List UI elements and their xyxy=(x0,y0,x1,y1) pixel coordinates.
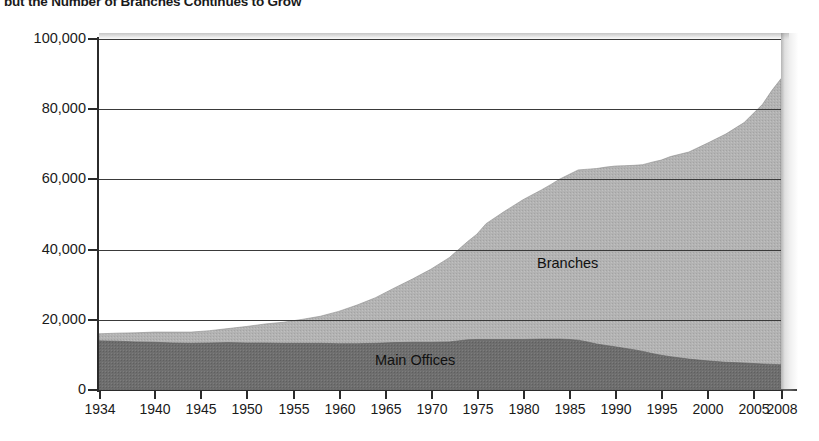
x-axis-tick xyxy=(431,390,433,399)
x-axis-label: 1950 xyxy=(231,401,262,417)
x-axis-label: 1934 xyxy=(84,401,115,417)
x-axis-tick xyxy=(753,390,755,399)
x-axis-label: 1945 xyxy=(185,401,216,417)
gridline-100000 xyxy=(99,39,781,40)
y-axis-label: 80,000 xyxy=(2,100,86,116)
x-axis-label: 2008 xyxy=(766,401,797,417)
y-axis-tick xyxy=(88,389,99,391)
x-axis-label: 1980 xyxy=(508,401,539,417)
gridline-40000 xyxy=(99,250,781,251)
x-axis-tick xyxy=(99,390,101,399)
y-axis-label: 20,000 xyxy=(2,311,86,327)
y-axis-label: 0 xyxy=(2,381,86,397)
gridline-80000 xyxy=(99,109,781,110)
chart-root: but the Number of Branches Continues to … xyxy=(0,0,819,441)
y-axis-label: 60,000 xyxy=(2,170,86,186)
x-axis-label: 1940 xyxy=(139,401,170,417)
x-axis-tick xyxy=(200,390,202,399)
x-axis-tick xyxy=(385,390,387,399)
y-axis-tick xyxy=(88,38,99,40)
series-label-branches: Branches xyxy=(537,255,598,271)
y-axis-label: 40,000 xyxy=(2,241,86,257)
y-axis-tick xyxy=(88,108,99,110)
x-axis-tick xyxy=(781,390,783,399)
x-axis-tick xyxy=(661,390,663,399)
y-axis-tick xyxy=(88,178,99,180)
gridline-20000 xyxy=(99,320,781,321)
x-axis-label: 1955 xyxy=(278,401,309,417)
y-axis-label: 100,000 xyxy=(2,30,86,46)
x-axis-label: 1995 xyxy=(646,401,677,417)
x-axis-tick xyxy=(569,390,571,399)
y-axis-tick xyxy=(88,249,99,251)
x-axis-label: 1990 xyxy=(600,401,631,417)
x-axis-label: 2005 xyxy=(738,401,769,417)
x-axis-label: 1975 xyxy=(462,401,493,417)
x-axis-label: 1985 xyxy=(554,401,585,417)
x-axis-tick xyxy=(615,390,617,399)
y-axis-labels: 020,00040,00060,00080,000100,000 xyxy=(0,0,86,441)
x-axis-tick xyxy=(523,390,525,399)
series-label-main-offices: Main Offices xyxy=(375,352,455,368)
y-axis-tick xyxy=(88,319,99,321)
gridline-60000 xyxy=(99,179,781,180)
scan-artifact-right xyxy=(781,33,798,391)
x-axis-tick xyxy=(293,390,295,399)
x-axis-tick xyxy=(154,390,156,399)
x-axis-label: 1965 xyxy=(370,401,401,417)
x-axis-label: 1970 xyxy=(416,401,447,417)
x-axis-tick xyxy=(477,390,479,399)
x-axis-label: 1960 xyxy=(324,401,355,417)
x-axis-tick xyxy=(246,390,248,399)
x-axis-tick xyxy=(339,390,341,399)
stacked-area-series xyxy=(99,39,781,390)
x-axis-label: 2000 xyxy=(692,401,723,417)
x-axis-tick xyxy=(707,390,709,399)
